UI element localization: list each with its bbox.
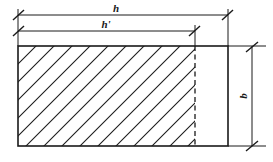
diagram-canvas: h h' b xyxy=(0,0,273,162)
technical-drawing: h h' b xyxy=(0,0,273,162)
dimension-label-h: h xyxy=(113,2,119,14)
dimension-label-h-prime: h' xyxy=(101,18,110,30)
cross-section-outline xyxy=(18,46,228,146)
section-hatching xyxy=(0,36,273,156)
dimension-label-b: b xyxy=(237,93,249,99)
